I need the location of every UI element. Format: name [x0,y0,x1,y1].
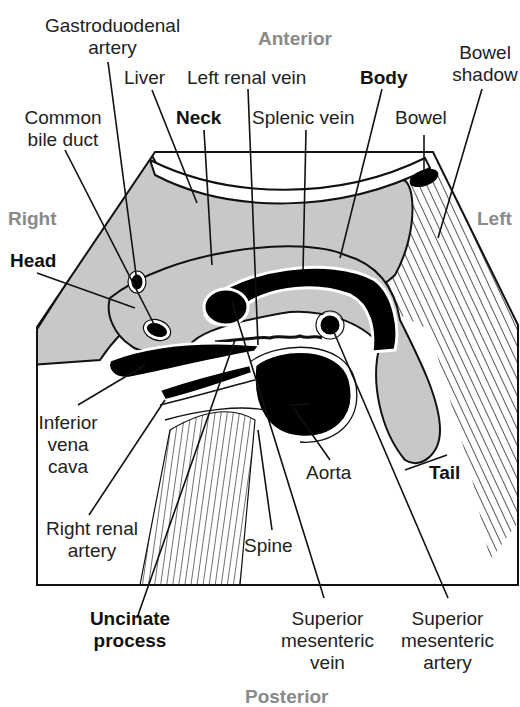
label-left: Left [477,208,512,230]
label-bowel: Bowel [395,107,447,129]
label-anterior: Anterior [258,28,332,50]
label-head: Head [10,250,56,272]
label-inferior-vena-cava: Inferior vena cava [38,412,98,478]
label-spine: Spine [244,535,293,557]
label-posterior: Posterior [245,686,328,707]
label-neck: Neck [176,107,221,129]
label-left-renal-vein: Left renal vein [187,67,306,89]
left-renal-vein-vessel [215,336,322,342]
label-bowel-shadow: Bowel shadow [450,42,520,86]
label-tail: Tail [429,462,460,484]
label-splenic-vein: Splenic vein [252,107,354,129]
label-gastroduodenal-artery: Gastroduodenal artery [35,15,190,59]
label-right-renal-artery: Right renal artery [38,518,146,562]
portal-confluence [204,289,248,325]
sma-vessel [319,314,341,336]
right-renal-artery-vessel [160,365,252,400]
label-right: Right [8,208,57,230]
label-body: Body [360,67,408,89]
label-aorta: Aorta [306,462,351,484]
label-uncinate-process: Uncinate process [80,608,180,652]
label-superior-mesenteric-vein: Superior mesenteric vein [275,608,380,674]
aorta-vessel [254,351,352,437]
label-liver: Liver [124,67,165,89]
label-common-bile-duct: Common bile duct [18,107,108,151]
label-superior-mesenteric-artery: Superior mesenteric artery [395,608,500,674]
